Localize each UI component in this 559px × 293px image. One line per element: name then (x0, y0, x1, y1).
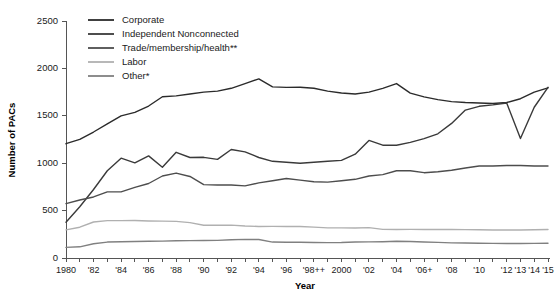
series-line (66, 220, 548, 229)
x-axis-tick-label: '13 (515, 265, 527, 275)
x-axis-tick-label: '86 (143, 265, 155, 275)
x-axis-tick-label: '88 (170, 265, 182, 275)
x-axis-tick-label: '82 (88, 265, 100, 275)
x-axis-tick-label: '90 (198, 265, 210, 275)
y-axis-tick-label: 0 (53, 252, 58, 263)
y-axis-tick-label: 2500 (37, 15, 58, 26)
series-line (66, 166, 548, 204)
x-axis-tick-label: '12 (501, 265, 513, 275)
chart-legend: CorporateIndependent NonconnectedTrade/m… (88, 14, 239, 81)
x-axis-tick-label: '08 (446, 265, 458, 275)
x-axis-tick-label: '06+ (416, 265, 433, 275)
x-axis-tick-label: '96 (280, 265, 292, 275)
x-axis-tick-label: 1980 (56, 265, 76, 275)
pac-count-line-chart: 05001000150020002500 1980'82'84'86'88'90… (0, 0, 559, 293)
legend-label: Trade/membership/health** (122, 42, 238, 53)
x-axis-tick-label: '04 (391, 265, 403, 275)
x-axis-title: Year (295, 280, 315, 291)
x-axis-tick-label: 2000 (331, 265, 351, 275)
series-line (66, 87, 548, 222)
y-axis-tick-label: 1000 (37, 157, 58, 168)
y-axis-title: Number of PACs (6, 103, 17, 178)
series-line (66, 239, 548, 247)
x-axis-tick-label: '94 (253, 265, 265, 275)
y-axis-tick-label: 2000 (37, 62, 58, 73)
x-axis: 1980'82'84'86'88'90'92'94'96'98++2000'02… (56, 258, 554, 275)
x-axis-tick-label: '02 (363, 265, 375, 275)
legend-label: Corporate (122, 14, 164, 25)
x-axis-tick-label: '15 (542, 265, 554, 275)
legend-label: Labor (122, 56, 146, 67)
x-axis-tick-label: '92 (225, 265, 237, 275)
legend-label: Independent Nonconnected (122, 28, 239, 39)
y-axis-tick-label: 500 (42, 204, 58, 215)
legend-label: Other* (122, 70, 150, 81)
y-axis-tick-label: 1500 (37, 109, 58, 120)
y-axis: 05001000150020002500 (37, 15, 66, 263)
series-line (66, 79, 548, 144)
x-axis-tick-label: '10 (473, 265, 485, 275)
x-axis-tick-label: '14 (528, 265, 540, 275)
x-axis-tick-label: '98++ (303, 265, 325, 275)
series-lines (66, 79, 548, 248)
x-axis-tick-label: '84 (115, 265, 127, 275)
chart-canvas: 05001000150020002500 1980'82'84'86'88'90… (0, 0, 559, 293)
